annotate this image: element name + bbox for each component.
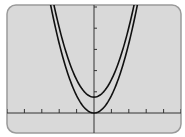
graphing-calculator-screen xyxy=(0,0,185,137)
